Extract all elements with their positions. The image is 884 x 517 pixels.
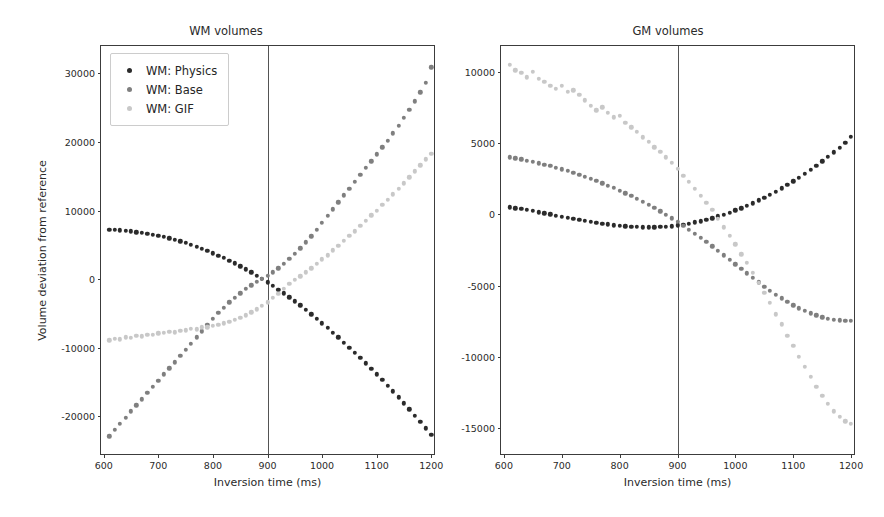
scatter-point <box>548 212 552 216</box>
reference-vline <box>268 46 269 454</box>
scatter-point <box>407 108 411 112</box>
scatter-point <box>407 175 411 179</box>
scatter-point <box>123 229 127 233</box>
scatter-point <box>733 242 737 246</box>
scatter-point <box>629 225 633 229</box>
scatter-point <box>808 167 812 171</box>
y-tick-label: 5000 <box>471 138 495 149</box>
scatter-point <box>531 69 535 73</box>
y-tick-label: -10000 <box>461 351 495 362</box>
scatter-point <box>652 145 656 149</box>
scatter-point <box>369 367 373 371</box>
scatter-point <box>583 219 587 223</box>
plot-title-wm: WM volumes <box>0 24 452 38</box>
y-tick <box>98 142 102 143</box>
scatter-point <box>554 213 558 217</box>
scatter-point <box>347 186 351 190</box>
scatter-point <box>832 150 836 154</box>
scatter-point <box>276 291 280 295</box>
scatter-point <box>140 231 144 235</box>
scatter-point <box>507 205 511 209</box>
scatter-point <box>612 115 616 119</box>
scatter-point <box>820 393 824 397</box>
scatter-point <box>681 174 685 178</box>
scatter-point <box>670 224 674 228</box>
scatter-point <box>704 201 708 205</box>
scatter-point <box>293 252 297 256</box>
x-tick-label: 800 <box>611 460 629 471</box>
scatter-point <box>612 223 616 227</box>
panel-gm: GM volumes Inversion time (ms) -15000-10… <box>452 0 884 517</box>
scatter-point <box>641 200 645 204</box>
scatter-point <box>282 262 286 266</box>
scatter-point <box>336 243 340 247</box>
scatter-point <box>779 296 783 300</box>
x-tick-label: 700 <box>553 460 571 471</box>
x-tick-label: 1000 <box>310 460 334 471</box>
scatter-point <box>145 332 149 336</box>
scatter-point <box>837 318 841 322</box>
scatter-point <box>670 216 674 220</box>
scatter-point <box>183 241 187 245</box>
legend-marker-icon <box>127 68 132 73</box>
x-tick-label: 1100 <box>365 460 389 471</box>
scatter-point <box>803 171 807 175</box>
x-tick <box>678 454 679 458</box>
scatter-point <box>837 415 841 419</box>
scatter-point <box>739 252 743 256</box>
scatter-point <box>629 125 633 129</box>
scatter-point <box>107 338 111 342</box>
scatter-point <box>791 303 795 307</box>
scatter-point <box>646 139 650 143</box>
scatter-point <box>309 234 313 238</box>
scatter-point <box>571 88 575 92</box>
x-tick <box>735 454 736 458</box>
scatter-point <box>635 197 639 201</box>
scatter-point <box>424 157 428 161</box>
scatter-point <box>129 229 133 233</box>
scatter-point <box>254 280 258 284</box>
scatter-point <box>536 77 540 81</box>
scatter-point <box>698 219 702 223</box>
scatter-points-gm <box>501 46 854 454</box>
scatter-point <box>336 335 340 339</box>
scatter-point <box>745 204 749 208</box>
scatter-point <box>167 330 171 334</box>
scatter-point <box>222 256 226 260</box>
scatter-point <box>342 193 346 197</box>
y-tick-label: 10000 <box>65 205 95 216</box>
scatter-point <box>658 149 662 153</box>
scatter-point <box>194 335 198 339</box>
scatter-point <box>727 234 731 238</box>
scatter-point <box>304 308 308 312</box>
scatter-point <box>227 258 231 262</box>
scatter-point <box>353 351 357 355</box>
scatter-point <box>519 71 523 75</box>
scatter-point <box>156 331 160 335</box>
scatter-point <box>675 223 679 227</box>
scatter-point <box>664 155 668 159</box>
scatter-point <box>402 401 406 405</box>
scatter-point <box>820 159 824 163</box>
scatter-point <box>342 239 346 243</box>
scatter-point <box>418 90 422 94</box>
scatter-point <box>513 206 517 210</box>
scatter-point <box>727 257 731 261</box>
scatter-point <box>178 239 182 243</box>
scatter-point <box>424 426 428 430</box>
scatter-point <box>222 321 226 325</box>
scatter-point <box>542 79 546 83</box>
scatter-point <box>325 214 329 218</box>
scatter-point <box>347 234 351 238</box>
scatter-point <box>774 189 778 193</box>
scatter-point <box>594 221 598 225</box>
scatter-point <box>646 225 650 229</box>
scatter-point <box>670 161 674 165</box>
scatter-point <box>588 104 592 108</box>
scatter-point <box>751 201 755 205</box>
scatter-point <box>238 264 242 268</box>
scatter-point <box>233 317 237 321</box>
x-tick-label: 1200 <box>419 460 443 471</box>
scatter-point <box>814 163 818 167</box>
scatter-point <box>304 270 308 274</box>
